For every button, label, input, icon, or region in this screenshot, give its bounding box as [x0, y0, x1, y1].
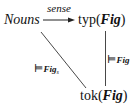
- edge-label-sense: sense: [47, 2, 71, 14]
- diagonal-subscript: Fig: [43, 64, 56, 74]
- edge-label-vertical: ⊨Fig: [107, 53, 129, 66]
- typ-arg: Fig: [101, 12, 121, 27]
- diagonal-subsubscript: s: [56, 69, 58, 75]
- typ-suffix: ): [121, 12, 126, 27]
- tok-prefix: tok(: [80, 88, 103, 103]
- tok-suffix: ): [123, 88, 128, 103]
- diagonal-line: [41, 32, 86, 88]
- node-typ: typ(Fig): [78, 12, 125, 28]
- vertical-subscript: Fig: [116, 55, 129, 65]
- typ-prefix: typ(: [78, 12, 101, 27]
- edge-label-diagonal: ⊨Figs: [34, 62, 59, 75]
- arrow-head-icon: [68, 18, 75, 23]
- node-tok: tok(Fig): [80, 88, 127, 104]
- node-nouns: Nouns: [4, 12, 40, 28]
- tok-arg: Fig: [103, 88, 123, 103]
